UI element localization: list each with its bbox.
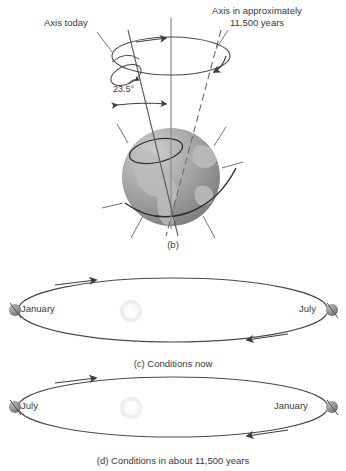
label-january-d: January [274,400,308,412]
panel-b [102,18,243,238]
axis-future-label-line1: Axis in approximately [212,5,302,16]
axis-future-label: Axis in approximately 11,500 years [182,5,332,28]
orbit-arrow-top-d [55,378,96,383]
caption-panel-b: (b) [0,239,346,251]
axis-today-label: Axis today [44,17,88,29]
axis-future-label-line2: 11,500 years [230,17,284,28]
tilt-angle-label: 23.5° [113,84,134,96]
label-january-c: January [21,303,55,315]
label-july-c: July [299,303,316,315]
panel-c [9,278,338,342]
caption-panel-c: (c) Conditions now [0,358,346,370]
orbit-ellipse-c [18,278,328,342]
earth-marker-january-d [326,400,338,415]
earth-marker-july-c [326,303,338,318]
label-july-d: July [21,400,38,412]
tilt-angle-indicator [117,103,166,105]
caption-panel-d: (d) Conditions in about 11,500 years [0,455,346,467]
axis-today-leader [97,32,112,52]
